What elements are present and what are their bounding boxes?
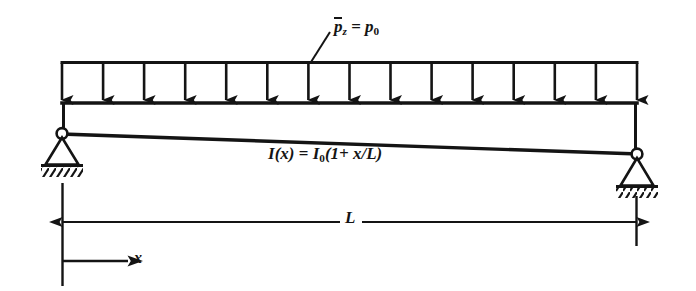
distributed-load-label: pz = p0 xyxy=(334,18,379,37)
load-value-subscript: 0 xyxy=(374,25,380,37)
load-arrows xyxy=(62,63,637,100)
load-symbol-p: p xyxy=(334,17,343,36)
inertia-rhs-expression: (1+ x/L) xyxy=(325,144,382,163)
beam-diagram-figure: pz = p0 I(x) = I0(1+ x/L) L x xyxy=(0,0,696,291)
moment-of-inertia-label: I(x) = I0(1+ x/L) xyxy=(268,145,382,164)
inertia-equals: = xyxy=(299,144,309,163)
span-length-label: L xyxy=(345,209,355,226)
p-bar-symbol: p xyxy=(334,18,343,35)
x-axis-label: x xyxy=(134,250,142,266)
support-triangle-icon xyxy=(46,138,79,165)
load-label-leader-line xyxy=(311,32,330,62)
distributed-load-group xyxy=(62,32,637,100)
support-right-pin xyxy=(616,149,658,198)
ground-hatching xyxy=(41,166,83,177)
load-equals: = xyxy=(351,17,361,36)
support-triangle-icon xyxy=(621,158,654,186)
inertia-lhs-argument: (x) xyxy=(275,144,295,163)
overbar-accent xyxy=(334,17,342,19)
span-dimension-group xyxy=(62,183,637,286)
inertia-lhs-symbol: I xyxy=(268,144,275,163)
load-value-symbol: p xyxy=(365,17,374,36)
